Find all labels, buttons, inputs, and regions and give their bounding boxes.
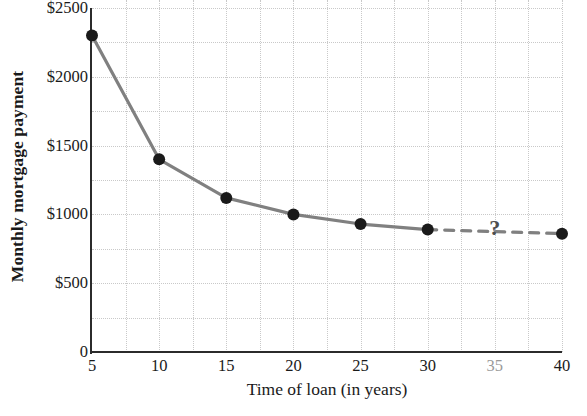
mortgage-payment-line-chart: Monthly mortgage payment 0$500$1000$1500…	[0, 0, 587, 416]
data-point-marker	[86, 30, 98, 42]
x-axis-title: Time of loan (in years)	[92, 379, 562, 400]
data-point-marker	[153, 153, 165, 165]
x-axis-title-label: Time of loan (in years)	[247, 379, 408, 399]
data-point-marker	[355, 218, 367, 230]
question-mark-annotation: ?	[489, 217, 500, 239]
data-point-marker	[287, 208, 299, 220]
series-layer	[0, 0, 587, 416]
data-point-marker	[556, 228, 568, 240]
data-point-marker	[220, 192, 232, 204]
series-line	[92, 36, 428, 230]
data-point-marker	[422, 224, 434, 236]
